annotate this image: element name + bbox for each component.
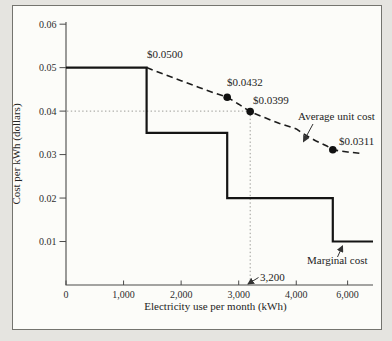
y-tick-label: 0.04 (39, 106, 57, 117)
data-point-marker (246, 108, 254, 116)
chart-canvas: 01,0002,0003,0004,0006,0000.010.020.030.… (0, 0, 392, 341)
annotation-label: Average unit cost (298, 110, 375, 122)
y-tick-label: 0.02 (39, 193, 57, 204)
data-point-marker (329, 146, 337, 154)
figure: 01,0002,0003,0004,0006,0000.010.020.030.… (0, 0, 392, 341)
annotation-label: $0.0311 (339, 135, 374, 147)
annotation-label: $0.0500 (147, 48, 183, 60)
x-tick-label: 1,000 (112, 289, 135, 300)
x-axis-title: Electricity use per month (kWh) (144, 300, 287, 313)
data-point-marker (223, 93, 231, 101)
x-tick-label: 3,000 (227, 289, 250, 300)
x-tick-label: 0 (64, 289, 69, 300)
x-tick-label: 6,000 (336, 289, 359, 300)
y-axis-title: Cost per kWh (dollars) (10, 103, 23, 204)
annotation-label: $0.0399 (253, 94, 289, 106)
annotation-label: Marginal cost (307, 254, 368, 266)
y-tick-label: 0.06 (39, 19, 57, 30)
x-tick-label: 4,000 (285, 289, 308, 300)
y-tick-label: 0.01 (39, 236, 57, 247)
annotation-label: $0.0432 (227, 76, 263, 88)
y-tick-label: 0.05 (39, 62, 57, 73)
annotation-label: 3,200 (260, 271, 285, 283)
y-tick-label: 0.03 (39, 149, 57, 160)
figure-border (13, 6, 382, 330)
x-tick-label: 2,000 (170, 289, 193, 300)
